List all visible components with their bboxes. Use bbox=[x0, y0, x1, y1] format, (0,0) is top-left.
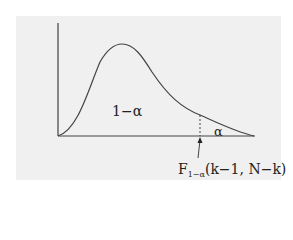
critical-value-label: F1−α(k−1, N−k) bbox=[178, 161, 286, 179]
arrow-head-icon bbox=[198, 137, 203, 143]
critical-value-main: F bbox=[178, 161, 188, 177]
critical-value-subscript: 1−α bbox=[188, 170, 205, 179]
body-area-label: 1−α bbox=[112, 103, 142, 119]
density-curve bbox=[58, 44, 254, 136]
tail-area-label: α bbox=[214, 124, 223, 139]
critical-value-args: (k−1, N−k) bbox=[205, 161, 286, 177]
